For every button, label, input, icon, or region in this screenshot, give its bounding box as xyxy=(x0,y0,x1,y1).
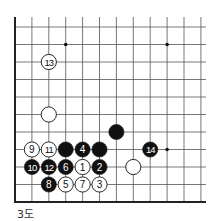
move-number: 3 xyxy=(97,179,103,190)
move-number: 8 xyxy=(46,179,52,190)
white-stone xyxy=(126,159,141,174)
move-number: 11 xyxy=(45,144,54,155)
move-number: 12 xyxy=(45,162,54,173)
move-number: 14 xyxy=(146,144,155,155)
white-stone xyxy=(41,107,56,122)
diagram-caption: 3도 xyxy=(17,205,34,221)
go-board: 1391141410126128573 xyxy=(0,0,215,221)
move-number: 7 xyxy=(80,179,86,190)
move-number: 1 xyxy=(80,162,86,173)
black-stone xyxy=(58,142,73,157)
move-number: 6 xyxy=(63,162,69,173)
move-number: 4 xyxy=(80,144,86,155)
move-number: 13 xyxy=(45,57,54,68)
black-stone xyxy=(109,124,124,139)
move-number: 5 xyxy=(63,179,69,190)
move-number: 2 xyxy=(97,162,103,173)
move-number: 10 xyxy=(28,162,37,173)
star-point xyxy=(64,43,68,47)
star-point xyxy=(165,148,169,152)
black-stone xyxy=(92,142,107,157)
star-point xyxy=(165,43,169,47)
move-number: 9 xyxy=(29,144,35,155)
